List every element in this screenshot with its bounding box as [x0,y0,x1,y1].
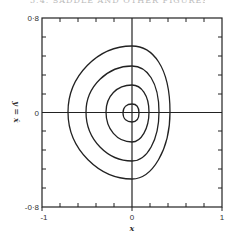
x-tick-zero: 0 [130,213,135,222]
y-tick-top: 0·8 [27,14,39,23]
phase-plot: 0·8 0 -0·8 -1 0 1 x y = ẋ [0,0,230,240]
y-axis-label: y = ẋ [12,100,22,123]
y-tick-bottom: -0·8 [25,203,40,212]
y-tick-zero: 0 [35,109,40,118]
x-tick-left: -1 [40,213,48,222]
x-axis-label: x [129,223,135,233]
orbit-3 [106,85,149,142]
x-tick-right: 1 [220,213,225,222]
